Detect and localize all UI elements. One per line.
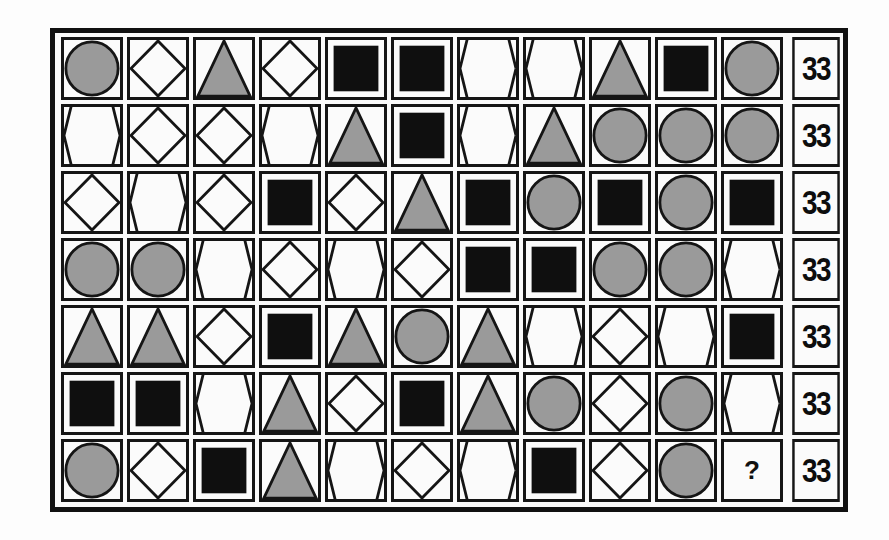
grid-cell-r1-c11	[719, 35, 785, 102]
gray-circle-icon	[655, 238, 717, 301]
black-square-icon	[61, 372, 123, 435]
grid-cell-r1-c9	[587, 35, 653, 102]
gray-circle-icon	[391, 305, 453, 368]
grid-cell-r5-c2	[125, 303, 191, 370]
grid-cell-r6-c11	[719, 370, 785, 437]
grid-cell-r2-c11	[719, 102, 785, 169]
grid-cell-r4-c3	[191, 236, 257, 303]
row-total-5: 33	[785, 303, 847, 370]
grid-cell-r4-c4	[257, 236, 323, 303]
black-square-icon	[193, 439, 255, 502]
gray-circle-icon	[721, 104, 783, 167]
outline-diamond-icon	[325, 372, 387, 435]
grid-cell-r6-c5	[323, 370, 389, 437]
gray-circle-icon	[61, 37, 123, 100]
grid-cell-r3-c10	[653, 169, 719, 236]
grid-cell-r4-c5	[323, 236, 389, 303]
outline-hexagon-icon	[127, 171, 189, 234]
outline-diamond-icon	[259, 238, 321, 301]
row-total-value: 33	[792, 238, 840, 301]
gray-triangle-icon	[127, 305, 189, 368]
grid-cell-r1-c10	[653, 35, 719, 102]
grid-cell-r6-c4	[257, 370, 323, 437]
grid-cell-r7-c11[interactable]: ?	[719, 437, 785, 504]
gray-circle-icon	[655, 104, 717, 167]
grid-cell-r1-c4	[257, 35, 323, 102]
grid-cell-r7-c4	[257, 437, 323, 504]
grid-cell-r2-c2	[125, 102, 191, 169]
gray-circle-icon	[589, 104, 651, 167]
grid-cell-r5-c6	[389, 303, 455, 370]
grid-cell-r1-c7	[455, 35, 521, 102]
grid-cell-r4-c7	[455, 236, 521, 303]
grid-cell-r3-c5	[323, 169, 389, 236]
grid-cell-r4-c6	[389, 236, 455, 303]
grid-cell-r1-c8	[521, 35, 587, 102]
grid-cell-r1-c3	[191, 35, 257, 102]
gray-circle-icon	[655, 372, 717, 435]
grid-cell-r3-c4	[257, 169, 323, 236]
grid-cell-r2-c5	[323, 102, 389, 169]
outline-diamond-icon	[193, 104, 255, 167]
grid-cell-r2-c6	[389, 102, 455, 169]
outline-hexagon-icon	[523, 37, 585, 100]
row-total-7: 33	[785, 437, 847, 504]
outline-diamond-icon	[127, 104, 189, 167]
gray-circle-icon	[721, 37, 783, 100]
outline-diamond-icon	[325, 171, 387, 234]
gray-circle-icon	[61, 439, 123, 502]
outline-diamond-icon	[127, 37, 189, 100]
outline-diamond-icon	[589, 372, 651, 435]
grid-cell-r1-c5	[323, 35, 389, 102]
black-square-icon	[457, 171, 519, 234]
grid-cell-r2-c4	[257, 102, 323, 169]
grid-cell-r6-c7	[455, 370, 521, 437]
gray-circle-icon	[655, 171, 717, 234]
outline-hexagon-icon	[61, 104, 123, 167]
black-square-icon	[391, 372, 453, 435]
outline-hexagon-icon	[457, 37, 519, 100]
outline-hexagon-icon	[193, 372, 255, 435]
black-square-icon	[457, 238, 519, 301]
black-square-icon	[259, 171, 321, 234]
grid-cell-r4-c8	[521, 236, 587, 303]
black-square-icon	[325, 37, 387, 100]
grid-cell-r7-c7	[455, 437, 521, 504]
grid-cell-r3-c9	[587, 169, 653, 236]
grid-cell-r7-c8	[521, 437, 587, 504]
outline-diamond-icon	[391, 238, 453, 301]
gray-circle-icon	[61, 238, 123, 301]
grid-cell-r6-c2	[125, 370, 191, 437]
grid-cell-r7-c1	[59, 437, 125, 504]
grid-cell-r4-c10	[653, 236, 719, 303]
grid-cell-r4-c9	[587, 236, 653, 303]
row-total-value: 33	[792, 439, 840, 502]
black-square-icon	[721, 305, 783, 368]
outline-hexagon-icon	[325, 439, 387, 502]
grid-cell-r2-c1	[59, 102, 125, 169]
row-total-value: 33	[792, 104, 840, 167]
grid-cell-r5-c7	[455, 303, 521, 370]
grid-cell-r5-c11	[719, 303, 785, 370]
gray-circle-icon	[127, 238, 189, 301]
gray-triangle-icon	[457, 305, 519, 368]
grid-cell-r5-c1	[59, 303, 125, 370]
grid-cell-r5-c8	[521, 303, 587, 370]
puzzle-grid: 333333333333?33	[59, 35, 847, 504]
black-square-icon	[391, 37, 453, 100]
black-square-icon	[127, 372, 189, 435]
gray-circle-icon	[523, 372, 585, 435]
black-square-icon	[589, 171, 651, 234]
grid-cell-r1-c1	[59, 35, 125, 102]
grid-cell-r5-c9	[587, 303, 653, 370]
grid-cell-r2-c3	[191, 102, 257, 169]
puzzle-frame: 333333333333?33	[50, 28, 848, 512]
grid-cell-r4-c2	[125, 236, 191, 303]
black-square-icon	[523, 238, 585, 301]
black-square-icon	[391, 104, 453, 167]
grid-cell-r2-c7	[455, 102, 521, 169]
grid-cell-r2-c10	[653, 102, 719, 169]
grid-cell-r7-c6	[389, 437, 455, 504]
gray-triangle-icon	[589, 37, 651, 100]
grid-cell-r6-c3	[191, 370, 257, 437]
